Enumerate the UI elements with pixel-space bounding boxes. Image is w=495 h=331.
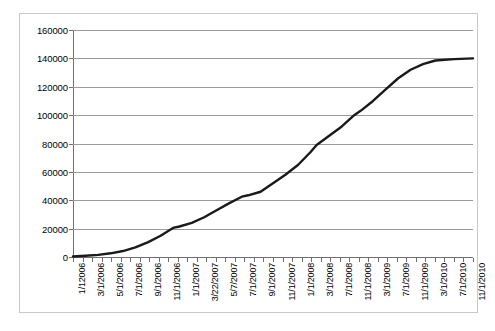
x-axis-minor-tick-mark [254, 258, 255, 262]
x-axis-minor-tick-mark [102, 258, 103, 262]
x-axis-tick-label: 1/12006 [77, 263, 87, 294]
x-axis-minor-tick-mark [216, 258, 217, 262]
x-axis-minor-tick-mark [292, 258, 293, 262]
x-axis-tick-mark [340, 258, 341, 262]
x-axis-tick-label: 3/1/2010 [439, 263, 449, 296]
x-axis-minor-tick-mark [425, 258, 426, 262]
x-axis-tick-mark [92, 258, 93, 262]
x-axis-tick-label: 7/1/2009 [401, 263, 411, 296]
x-axis-tick-label: 3/1/2009 [382, 263, 392, 296]
x-axis-tick-mark [359, 258, 360, 262]
x-axis-tick-mark [473, 258, 474, 262]
x-axis-tick-mark [244, 258, 245, 262]
x-axis-tick-mark [397, 258, 398, 262]
x-axis-minor-tick-mark [368, 258, 369, 262]
series-line-path [73, 58, 473, 256]
x-axis-tick-mark [454, 258, 455, 262]
x-axis-tick-label: 11/1/2009 [420, 263, 430, 301]
x-axis-tick-mark [225, 258, 226, 262]
x-axis-minor-tick-mark [178, 258, 179, 262]
x-axis-tick-label: 11/1/2008 [363, 263, 373, 301]
x-axis-minor-tick-mark [121, 258, 122, 262]
x-axis-tick-mark [130, 258, 131, 262]
x-axis-tick-label: 7/1/2007 [248, 263, 258, 296]
x-axis-tick-mark [111, 258, 112, 262]
x-axis-tick-label: 9/1/2007 [267, 263, 277, 296]
x-axis-tick-label: 5/7/2007 [229, 263, 239, 296]
x-axis-tick-label: 7/1/2010 [458, 263, 468, 296]
x-axis-tick-label: 3/22/2007 [210, 263, 220, 301]
x-axis-tick-label: 3/1/2008 [325, 263, 335, 296]
x-axis-tick-mark [187, 258, 188, 262]
x-axis-tick-mark [302, 258, 303, 262]
x-axis-minor-tick-mark [406, 258, 407, 262]
x-axis-tick-label: 11/1/2006 [172, 263, 182, 301]
x-axis-tick-mark [263, 258, 264, 262]
y-axis-tick-marks [20, 30, 73, 258]
plot-area [73, 30, 473, 257]
x-axis-tick-mark [416, 258, 417, 262]
x-axis-tick-mark [321, 258, 322, 262]
x-axis-minor-tick-mark [235, 258, 236, 262]
x-axis-tick-mark [206, 258, 207, 262]
x-axis-minor-tick-mark [273, 258, 274, 262]
x-axis-tick-label: 7/1/2008 [344, 263, 354, 296]
x-axis-tick-label: 1/1/2007 [191, 263, 201, 296]
x-axis-minor-tick-mark [311, 258, 312, 262]
x-axis-tick-label: 7/1/2006 [134, 263, 144, 296]
x-axis-minor-tick-mark [140, 258, 141, 262]
x-axis-minor-tick-mark [159, 258, 160, 262]
x-axis-labels: 1/120063/1/20065/1/20067/1/20069/1/20061… [73, 263, 474, 313]
x-axis-minor-tick-mark [387, 258, 388, 262]
x-axis-minor-tick-mark [444, 258, 445, 262]
x-axis-tick-mark [378, 258, 379, 262]
x-axis-tick-label: 3/1/2006 [96, 263, 106, 296]
x-axis-minor-tick-mark [83, 258, 84, 262]
x-axis-tick-label: 11/1/2010 [477, 263, 487, 301]
x-axis-tick-mark [73, 258, 74, 262]
x-axis-tick-mark [283, 258, 284, 262]
x-axis-tick-label: 5/1/2006 [115, 263, 125, 296]
x-axis-tick-mark [168, 258, 169, 262]
x-axis-tick-mark [149, 258, 150, 262]
x-axis-minor-tick-mark [349, 258, 350, 262]
x-axis-minor-tick-mark [463, 258, 464, 262]
x-axis-tick-label: 9/1/2006 [153, 263, 163, 296]
x-axis-tick-label: 11/1/2007 [287, 263, 297, 301]
series-line-chart [73, 30, 473, 257]
x-axis-minor-tick-mark [197, 258, 198, 262]
x-axis-tick-label: 1/1/2008 [306, 263, 316, 296]
chart-figure: 0200004000060000800001000001200001400001… [19, 13, 478, 313]
x-axis-minor-tick-mark [330, 258, 331, 262]
x-axis-tick-mark [435, 258, 436, 262]
